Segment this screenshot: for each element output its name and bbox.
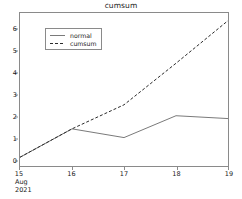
y-tick-label: 3 — [3, 92, 17, 99]
chart-title: cumsum — [0, 1, 242, 10]
x-axis: Aug2021 1516171819 — [19, 167, 229, 199]
y-axis: 0123456 — [0, 12, 17, 167]
chart-legend: normal cumsum — [45, 28, 102, 50]
plot-area: normal cumsum — [19, 12, 229, 167]
x-tick-label: 19 — [225, 171, 233, 178]
y-tick-label: 5 — [3, 48, 17, 55]
legend-item-cumsum: cumsum — [49, 39, 97, 47]
x-axis-period-part: 2021 — [15, 187, 32, 195]
x-tick-label: 15 — [15, 171, 23, 178]
chart-figure: cumsum 0123456 normal cumsum Aug2021 151… — [0, 0, 242, 199]
y-tick-label: 6 — [3, 25, 17, 32]
legend-swatch-solid-icon — [49, 32, 66, 39]
x-tick-label: 16 — [67, 171, 75, 178]
y-tick-label: 2 — [3, 114, 17, 121]
x-tick-label: 17 — [120, 171, 128, 178]
y-tick-label: 1 — [3, 136, 17, 143]
y-tick-label: 4 — [3, 70, 17, 77]
x-tick-label: 18 — [172, 171, 180, 178]
legend-item-normal: normal — [49, 31, 97, 39]
legend-label-cumsum: cumsum — [70, 40, 97, 47]
x-axis-period-label: Aug2021 — [15, 179, 32, 194]
legend-label-normal: normal — [70, 32, 92, 39]
legend-swatch-dashed-icon — [49, 40, 66, 47]
series-line-normal — [20, 116, 228, 158]
y-tick-label: 0 — [3, 158, 17, 165]
